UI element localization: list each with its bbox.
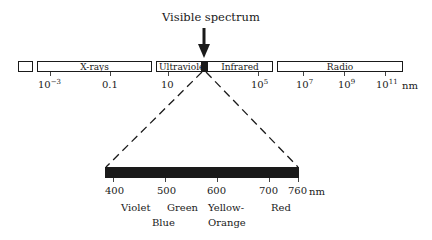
tick bbox=[50, 72, 51, 76]
wavelength-760: 760 bbox=[288, 186, 307, 196]
tick-label-10: 10 bbox=[161, 80, 174, 90]
color-red: Red bbox=[271, 203, 291, 213]
wavelength-400: 400 bbox=[105, 186, 124, 196]
color-blue: Blue bbox=[152, 218, 175, 228]
color-green: Green bbox=[167, 203, 198, 213]
tick-label-0-1: 0.1 bbox=[102, 80, 118, 90]
tick bbox=[258, 72, 259, 76]
unit-label-top: nm bbox=[402, 81, 418, 91]
band-infrared: Infrared bbox=[207, 61, 273, 72]
band-radio: Radio bbox=[277, 61, 403, 72]
color-violet: Violet bbox=[121, 203, 150, 213]
arrow-down-icon bbox=[198, 28, 210, 58]
tick bbox=[110, 72, 111, 76]
band-label-radio: Radio bbox=[327, 62, 353, 72]
tick bbox=[113, 178, 114, 182]
tick bbox=[298, 178, 299, 182]
unit-label-bottom: nm bbox=[309, 187, 325, 197]
tick-label-1e7: 107 bbox=[296, 80, 313, 90]
color-yellow: Yellow- bbox=[208, 203, 244, 213]
tick bbox=[303, 72, 304, 76]
wavelength-700: 700 bbox=[259, 186, 278, 196]
band-label-infrared: Infrared bbox=[221, 62, 259, 72]
tick bbox=[269, 178, 270, 182]
band-gamma-rays bbox=[18, 61, 33, 72]
tick-label-1e11: 1011 bbox=[376, 80, 398, 90]
tick-label-1e5: 105 bbox=[251, 80, 268, 90]
tick bbox=[217, 178, 218, 182]
tick bbox=[385, 72, 386, 76]
tick bbox=[344, 72, 345, 76]
visible-spectrum-bar bbox=[105, 167, 299, 178]
tick bbox=[168, 72, 169, 76]
band-x-rays: X-rays bbox=[37, 61, 152, 72]
wavelength-500: 500 bbox=[157, 186, 176, 196]
tick-label-1e9: 109 bbox=[338, 80, 355, 90]
wavelength-600: 600 bbox=[207, 186, 226, 196]
tick bbox=[165, 178, 166, 182]
band-ultraviolet: Ultraviolet bbox=[156, 61, 202, 72]
color-orange: Orange bbox=[208, 218, 246, 228]
tick-label-1e-3: 10−3 bbox=[38, 80, 61, 90]
band-label-x-rays: X-rays bbox=[80, 62, 109, 72]
